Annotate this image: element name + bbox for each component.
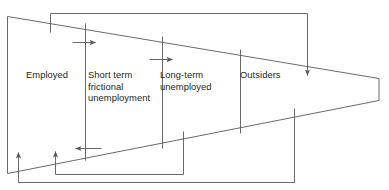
flow-longterm-to-shortterm-path bbox=[56, 132, 184, 175]
wedge-outline bbox=[8, 17, 380, 174]
segment-label-outsiders: Outsiders bbox=[240, 69, 281, 81]
segment-label-long-term-unemployed: Long-term unemployed bbox=[160, 69, 212, 92]
diagram-canvas bbox=[0, 0, 389, 190]
segment-label-employed: Employed bbox=[26, 69, 68, 81]
segment-label-short-term-frictional-unemployment: Short term frictional unemployment bbox=[88, 69, 150, 104]
flow-outsiders-to-employed-path bbox=[19, 109, 295, 183]
labour-market-flow-diagram: Employed Short term frictional unemploym… bbox=[0, 0, 389, 190]
flow-employed-to-outsiders-path bbox=[51, 14, 308, 67]
